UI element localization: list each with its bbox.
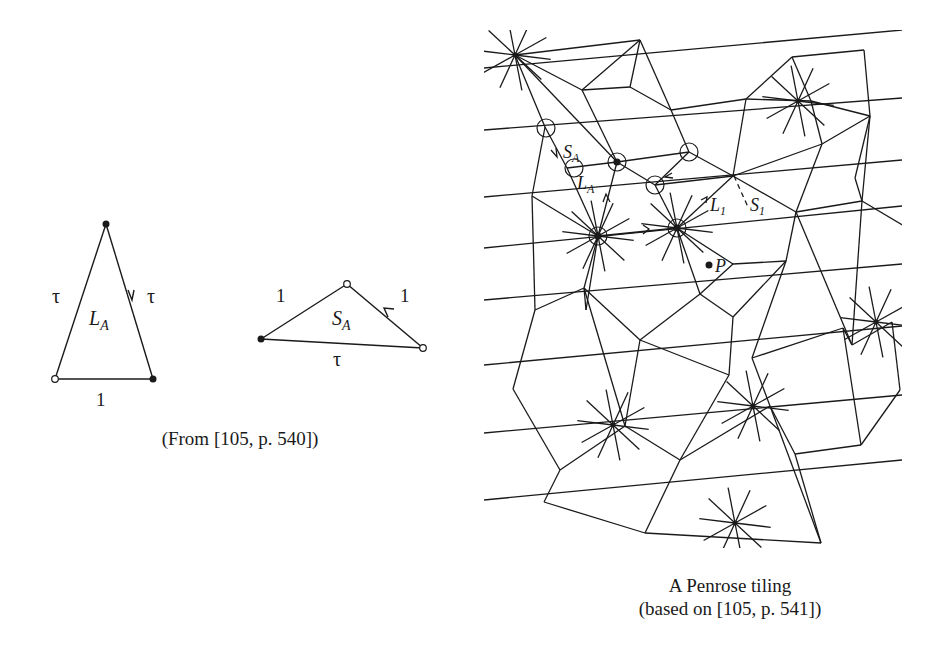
tiling-edge <box>843 328 861 445</box>
tiling-edge <box>689 152 733 176</box>
tiling-edge <box>680 375 729 460</box>
tiling-edge <box>532 196 535 310</box>
tiling-edge <box>582 87 630 90</box>
tiling-edge <box>484 98 902 130</box>
tiling-edge <box>862 201 916 233</box>
vertex-dot <box>674 225 680 231</box>
tiling-edge <box>484 30 902 68</box>
tiling-edge <box>752 358 770 406</box>
label-l1: L1 <box>709 195 726 218</box>
penrose-tiling <box>479 20 916 559</box>
large-tile-la <box>55 224 153 379</box>
tiling-edge <box>822 116 870 144</box>
tiling-edge <box>515 55 545 127</box>
tiling-edge <box>640 340 729 375</box>
tiling-edge <box>640 294 700 340</box>
tiling-edge <box>484 395 902 433</box>
vertex-dot <box>614 159 620 165</box>
tiling-edge <box>513 310 535 389</box>
label-p: P <box>714 256 726 276</box>
tiling-edge <box>544 470 560 502</box>
side-label-left: τ <box>52 285 60 307</box>
tiling-edge <box>796 201 862 212</box>
tiling-vertex <box>874 320 879 325</box>
tiling-edge <box>645 533 821 543</box>
tiling-edge <box>617 162 655 185</box>
tiling-edge <box>796 144 822 212</box>
tiling-edge <box>770 406 795 454</box>
label-sa: SA <box>563 142 580 165</box>
arrow-icon <box>551 148 557 157</box>
tiling-edge <box>677 176 733 228</box>
tiling-edge <box>795 454 821 543</box>
figure-canvas: τ τ 1 LA 1 1 τ SA SA LA L1 S1 P <box>0 0 928 655</box>
tiling-edge <box>770 406 821 543</box>
tiling-edge <box>717 402 753 406</box>
tiling-edge <box>625 340 640 426</box>
tiling-edge <box>796 212 852 345</box>
tile-label-sa: SA <box>332 307 351 333</box>
tiling-edge <box>484 460 902 500</box>
tile-label-la: LA <box>88 307 109 333</box>
tiling-vertex <box>751 404 756 409</box>
tiling-edge <box>855 178 862 201</box>
tiling-edge <box>532 127 545 196</box>
tiling-vertex <box>513 53 518 58</box>
white-vertex <box>344 281 351 288</box>
tiling-edge <box>852 201 862 345</box>
tiling-edge <box>655 185 677 228</box>
tiling-edge <box>645 460 680 533</box>
side-label-base: 1 <box>96 389 106 410</box>
tiling-edge <box>700 294 733 317</box>
tiling-edge <box>733 261 786 264</box>
tiling-edge <box>876 322 912 326</box>
tiling-edge <box>752 328 843 358</box>
tiling-edge <box>598 162 617 236</box>
side-label-left: 1 <box>276 285 286 306</box>
black-vertex <box>150 376 157 383</box>
tiling-edge <box>699 519 735 523</box>
label-la: LA <box>576 173 595 196</box>
tiling-edge <box>535 288 584 310</box>
tiling-edge <box>864 50 870 116</box>
tiling-edge <box>582 90 617 162</box>
tiling-edge <box>630 87 671 110</box>
tiling-edge <box>735 523 771 527</box>
tiling-edge <box>560 426 625 470</box>
tiling-edge <box>479 51 515 55</box>
tiling-edge <box>795 445 861 454</box>
tiling-edge <box>729 317 733 375</box>
point-p-dot <box>706 262 713 269</box>
tiling-vertex <box>796 99 801 104</box>
tiling-edge <box>671 110 689 152</box>
tiling-edge <box>862 116 870 201</box>
right-caption-line2: (based on [105, p. 541]) <box>590 598 870 620</box>
tiling-edge <box>515 40 640 55</box>
tiling-edge <box>671 99 746 110</box>
tiling-edge <box>584 288 625 426</box>
arrow-icon <box>643 225 649 234</box>
tiling-edge <box>786 212 796 261</box>
left-caption: (From [105, p. 540]) <box>120 428 360 450</box>
tiling-edge <box>544 502 645 533</box>
tiling-edge <box>733 261 786 317</box>
side-label-right: τ <box>147 285 155 307</box>
tiling-edge <box>792 50 864 57</box>
tiling-edge <box>613 425 649 429</box>
tiling-edge <box>746 57 792 99</box>
tiling-edge <box>617 152 689 162</box>
tiling-edge <box>598 236 634 240</box>
side-label-base: τ <box>333 348 341 370</box>
tiling-edge <box>640 40 671 110</box>
tiling-edge <box>484 326 902 365</box>
tiling-edge <box>840 318 876 322</box>
label-s1: S1 <box>750 195 765 218</box>
side-label-right: 1 <box>400 285 410 306</box>
right-caption-line1: A Penrose tiling <box>600 575 860 597</box>
black-vertex <box>258 336 265 343</box>
tiling-edge <box>532 196 598 236</box>
tiling-edge <box>852 322 892 345</box>
tiling-edge <box>484 160 902 197</box>
tiling-edge <box>484 264 902 300</box>
black-vertex <box>103 221 110 228</box>
